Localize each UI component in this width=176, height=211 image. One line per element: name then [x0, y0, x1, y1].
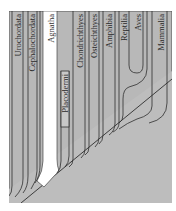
label-urochordata: Urochordata: [13, 14, 23, 57]
label-placodermi: Placodermi: [60, 73, 70, 112]
label-aves: Aves: [133, 14, 143, 31]
label-cephalochordata: Cephalochordata: [27, 14, 37, 72]
label-reptilia: Reptilia: [119, 14, 129, 41]
label-mammalia: Mammalia: [156, 14, 166, 51]
phylogeny-diagram: Urochordata Cephalochordata Agnatha Plac…: [9, 11, 172, 203]
label-chondrichthyes: Chondrichthyes: [75, 14, 85, 68]
tree-svg: Urochordata Cephalochordata Agnatha Plac…: [9, 11, 172, 203]
label-osteichthyes: Osteichthyes: [89, 14, 99, 58]
label-amphibia: Amphibia: [104, 14, 114, 48]
label-agnatha: Agnatha: [46, 14, 56, 43]
